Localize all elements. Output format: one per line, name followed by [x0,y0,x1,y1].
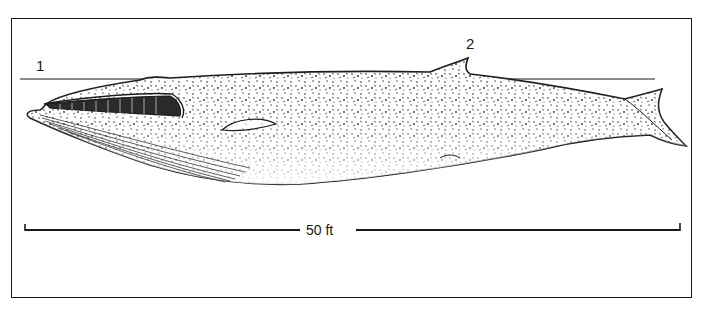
scale-bar [25,223,680,231]
label-2: 2 [466,36,474,51]
whale-body [27,58,686,184]
label-1: 1 [36,58,44,73]
scale-bar-label: 50 ft [302,223,337,237]
whale-drawing [0,0,706,315]
